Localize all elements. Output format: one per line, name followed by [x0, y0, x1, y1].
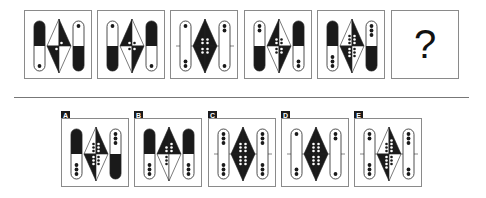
diamond	[267, 19, 291, 73]
question-panel: ?	[391, 10, 459, 79]
left-pill	[180, 21, 191, 71]
right-pill	[110, 129, 121, 179]
sequence-panel-3	[170, 10, 238, 79]
figure-4	[245, 11, 313, 80]
diamond	[231, 127, 255, 181]
option-d-figure	[282, 119, 350, 188]
left-pill	[364, 129, 375, 179]
left-pill	[291, 129, 302, 179]
left-pill	[144, 129, 155, 179]
option-c-figure	[209, 119, 277, 188]
option-b-figure	[135, 119, 203, 188]
figure-3	[171, 11, 239, 80]
diamond	[157, 127, 181, 181]
right-pill	[183, 129, 194, 179]
sequence-panel-1	[24, 10, 92, 79]
sequence-panel-2	[97, 10, 165, 79]
option-a[interactable]	[61, 118, 129, 187]
sequence-panel-5	[317, 10, 385, 79]
diamond	[304, 127, 328, 181]
figure-2	[98, 11, 166, 80]
diamond	[377, 127, 401, 181]
right-pill	[293, 21, 304, 71]
right-pill	[403, 129, 414, 179]
diamond	[120, 19, 144, 73]
right-pill	[257, 129, 268, 179]
right-pill	[73, 21, 84, 71]
left-pill	[218, 129, 229, 179]
right-pill	[366, 21, 377, 71]
right-pill	[146, 21, 157, 71]
diamond	[193, 19, 217, 73]
option-d[interactable]	[281, 118, 349, 187]
option-e-figure	[355, 119, 423, 188]
figure-5	[318, 11, 386, 80]
diamond	[84, 127, 108, 181]
divider-line	[14, 97, 469, 98]
option-a-figure	[62, 119, 130, 188]
question-mark: ?	[392, 11, 458, 78]
diamond	[340, 19, 364, 73]
option-e[interactable]	[354, 118, 422, 187]
left-pill	[327, 21, 338, 71]
left-pill	[34, 21, 45, 71]
right-pill	[219, 21, 230, 71]
figure-1	[25, 11, 93, 80]
option-b[interactable]	[134, 118, 202, 187]
left-pill	[71, 129, 82, 179]
option-c[interactable]	[208, 118, 276, 187]
diamond	[47, 19, 71, 73]
right-pill	[330, 129, 341, 179]
left-pill	[107, 21, 118, 71]
sequence-panel-4	[244, 10, 312, 79]
left-pill	[254, 21, 265, 71]
